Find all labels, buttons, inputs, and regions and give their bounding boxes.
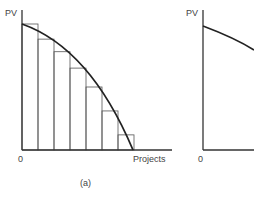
origin-label: 0 [18,154,23,164]
panel-caption: (a) [80,178,91,188]
y-axis-label: PV [5,8,17,18]
x-axis-label: Projects [133,154,166,164]
bar [38,39,54,150]
bar [86,87,102,150]
bar [70,68,86,150]
chart-a: PV 0 Projects (a) [5,8,172,188]
bar [54,52,70,150]
y-axis-label: PV [186,8,198,18]
bars [22,24,134,150]
chart-b: PV 0 [186,8,254,164]
figure: PV 0 Projects (a) PV 0 [0,0,254,197]
bar [102,111,118,150]
origin-label: 0 [198,154,203,164]
pv-curve [22,24,133,150]
pv-curve [203,26,254,50]
bar [22,24,38,150]
